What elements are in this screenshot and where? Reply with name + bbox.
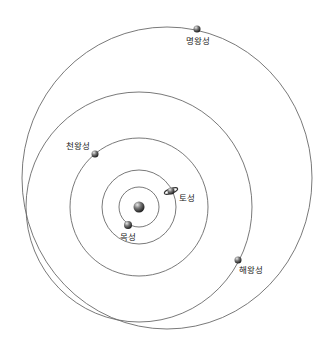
saturn-label: 토성 xyxy=(179,193,195,203)
pluto-orbit xyxy=(22,27,312,329)
jupiter-planet-icon xyxy=(124,221,132,229)
neptune-label: 해왕성 xyxy=(239,265,263,275)
uranus-label: 천왕성 xyxy=(66,141,90,151)
solar-system-diagram: 목성 토성 천왕성 해왕성 명왕성 xyxy=(0,0,332,352)
neptune-planet-icon xyxy=(235,257,242,264)
pluto-label: 명왕성 xyxy=(186,36,210,46)
uranus-planet-icon xyxy=(92,151,99,158)
saturn-planet-icon xyxy=(164,187,179,196)
pluto-planet-icon xyxy=(194,26,201,33)
jupiter-label: 목성 xyxy=(120,232,136,242)
sun-icon xyxy=(134,202,145,213)
